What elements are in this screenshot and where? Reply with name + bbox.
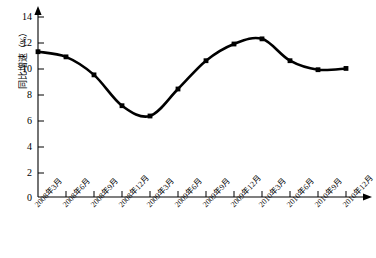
axes — [34, 6, 372, 201]
x-axis-arrow-icon — [363, 193, 372, 200]
data-point — [64, 54, 69, 59]
data-point — [344, 66, 349, 71]
data-point — [288, 58, 293, 63]
line-series — [38, 38, 346, 117]
data-point — [232, 42, 237, 47]
y-axis-ticks — [38, 17, 44, 173]
data-point — [148, 114, 153, 119]
chart-container: 同比增速（%） 14 12 10 8 6 4 2 0 — [0, 0, 376, 258]
data-point-markers — [36, 36, 349, 118]
data-point — [316, 67, 321, 72]
chart-svg — [0, 0, 376, 258]
data-point — [204, 58, 209, 63]
data-point — [36, 49, 41, 54]
data-point — [92, 72, 97, 77]
y-axis-arrow-icon — [34, 6, 41, 15]
data-point — [260, 36, 265, 41]
data-point — [176, 87, 181, 92]
data-point — [120, 103, 125, 108]
